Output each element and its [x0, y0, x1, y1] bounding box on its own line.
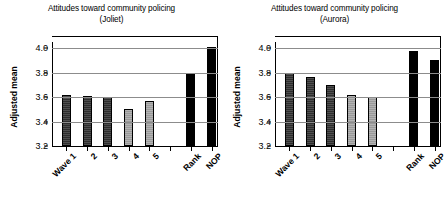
y-axis-tick-labels-aurora: 3.23.43.63.84.0 — [237, 42, 271, 146]
chart-title-main: Attitudes toward community policing — [271, 4, 398, 13]
gridline — [52, 48, 218, 49]
x-axis-labels-joliet: Wave 12345RankNOP — [52, 151, 218, 199]
x-axis-labels-aurora: Wave 12345RankNOP — [275, 151, 441, 199]
plot-canvas-joliet — [52, 42, 218, 146]
y-axis-tick-mark — [44, 97, 48, 98]
chart-title-joliet: Attitudes toward community policing (Jol… — [0, 3, 223, 25]
y-axis-tick-mark — [267, 72, 271, 73]
chart-subtitle: (Joliet) — [0, 14, 223, 25]
bar — [62, 95, 71, 146]
bar — [306, 77, 315, 146]
bar — [145, 101, 154, 146]
bar-series-joliet — [52, 42, 218, 146]
y-axis-tick-mark — [44, 121, 48, 122]
chart-panel-joliet: Attitudes toward community policing (Jol… — [0, 0, 223, 202]
chart-panel-aurora: Attitudes toward community policing (Aur… — [223, 0, 446, 202]
y-axis-tick-mark — [267, 48, 271, 49]
bar — [409, 51, 418, 146]
chart-title-main: Attitudes toward community policing — [48, 4, 175, 13]
y-axis-tick-mark — [267, 146, 271, 147]
bar — [186, 74, 195, 146]
plot-top-frame — [52, 36, 218, 37]
bar — [124, 109, 133, 146]
bar — [285, 73, 294, 146]
plot-canvas-aurora — [275, 42, 441, 146]
plot-area-aurora — [275, 36, 441, 146]
y-axis-tick-mark — [44, 146, 48, 147]
gridline — [52, 97, 218, 98]
plot-area-joliet — [52, 36, 218, 146]
chart-title-aurora: Attitudes toward community policing (Aur… — [223, 3, 446, 25]
y-axis-tick-mark — [267, 97, 271, 98]
gridline — [275, 122, 441, 123]
gridline — [275, 97, 441, 98]
gridline — [52, 73, 218, 74]
y-axis-tick-mark — [44, 48, 48, 49]
y-axis-tick-labels-joliet: 3.23.43.63.84.0 — [14, 42, 48, 146]
gridline — [52, 122, 218, 123]
chart-subtitle: (Aurora) — [223, 14, 446, 25]
gridline — [275, 48, 441, 49]
gridline — [275, 73, 441, 74]
bar-series-aurora — [275, 42, 441, 146]
two-panel-bar-chart-figure: Attitudes toward community policing (Jol… — [0, 0, 447, 202]
plot-top-frame — [275, 36, 441, 37]
bar — [326, 85, 335, 146]
y-axis-tick-mark — [267, 121, 271, 122]
y-axis-tick-mark — [44, 72, 48, 73]
bar — [347, 95, 356, 146]
